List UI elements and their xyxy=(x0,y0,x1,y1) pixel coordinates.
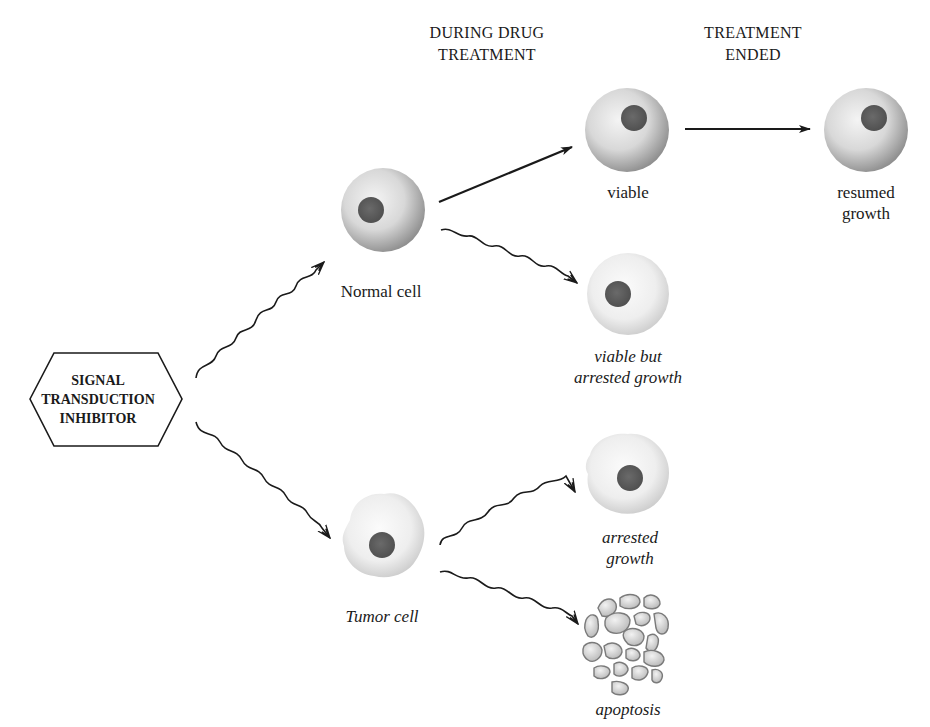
diagram-canvas xyxy=(0,0,930,727)
apoptosis-label: apoptosis xyxy=(595,699,660,720)
viable-label: viable xyxy=(607,182,649,203)
wavy-arrow-tumor-to-arrested xyxy=(440,476,575,545)
viable-arrested-label: viable but arrested growth xyxy=(574,346,682,388)
apoptosis-fragments-icon xyxy=(583,595,669,695)
inhibitor-line-1: SIGNAL xyxy=(30,371,166,390)
wavy-arrow-normal-to-viable-arrested xyxy=(441,229,577,283)
tumor-arrested-line-2: growth xyxy=(602,548,658,569)
resumed-line-2: growth xyxy=(837,203,895,224)
inhibitor-line-3: INHIBITOR xyxy=(30,409,166,428)
viable-arrested-line-2: arrested growth xyxy=(574,367,682,388)
tumor-cell-label: Tumor cell xyxy=(345,606,418,627)
inhibitor-label: SIGNAL TRANSDUCTION INHIBITOR xyxy=(30,371,166,428)
header-during-treatment: DURING DRUG TREATMENT xyxy=(430,22,545,66)
header-ended-line-1: TREATMENT xyxy=(704,22,802,44)
inhibitor-line-2: TRANSDUCTION xyxy=(30,390,166,409)
arrow-normal-to-viable xyxy=(439,147,572,202)
tumor-arrested-label: arrested growth xyxy=(602,527,658,569)
viable-cell-icon xyxy=(585,88,669,172)
tumor-cell-icon xyxy=(343,493,425,577)
normal-cell-icon xyxy=(341,168,425,252)
resumed-growth-label: resumed growth xyxy=(837,182,895,224)
resumed-line-1: resumed xyxy=(837,182,895,203)
resumed-growth-cell-icon xyxy=(824,88,908,172)
header-treatment-ended: TREATMENT ENDED xyxy=(704,22,802,66)
normal-cell-label: Normal cell xyxy=(341,281,422,302)
wavy-arrow-inhibitor-to-tumor xyxy=(196,422,330,538)
header-during-line-2: TREATMENT xyxy=(430,44,545,66)
viable-arrested-cell-icon xyxy=(587,253,669,335)
tumor-arrested-line-1: arrested xyxy=(602,527,658,548)
header-ended-line-2: ENDED xyxy=(704,44,802,66)
wavy-arrow-inhibitor-to-normal xyxy=(196,262,324,378)
viable-arrested-line-1: viable but xyxy=(574,346,682,367)
wavy-arrow-tumor-to-apoptosis xyxy=(440,571,578,624)
tumor-arrested-cell-icon xyxy=(586,434,669,514)
header-during-line-1: DURING DRUG xyxy=(430,22,545,44)
